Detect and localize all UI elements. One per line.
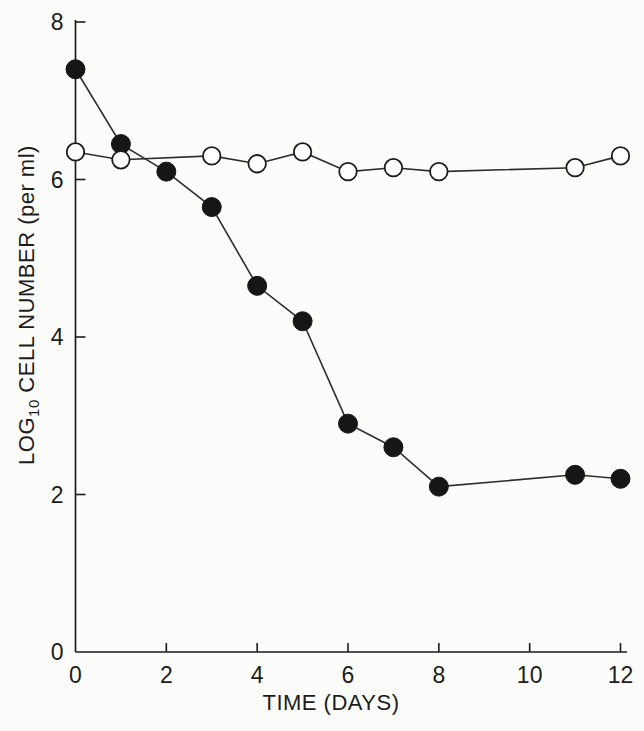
open-circle-series-point-day-8 — [430, 163, 448, 181]
filled-circle-series-point-day-11 — [566, 465, 585, 484]
open-circle-series-point-day-7 — [385, 159, 403, 177]
filled-circle-series-point-day-7 — [384, 438, 403, 457]
filled-circle-series-point-day-3 — [202, 198, 221, 217]
filled-circle-series-point-day-4 — [248, 276, 267, 295]
series-markers — [66, 60, 630, 496]
filled-circle-series-point-day-12 — [611, 469, 630, 488]
filled-circle-series-point-day-8 — [429, 477, 448, 496]
open-circle-series-point-day-1 — [112, 151, 129, 169]
y-axis-label-part: 10 — [25, 399, 42, 417]
open-circle-series-point-day-0 — [67, 143, 85, 161]
axes — [76, 20, 628, 652]
x-axis-label: TIME (DAYS) — [262, 690, 399, 715]
x-tick-label: 0 — [69, 662, 82, 688]
filled-circle-series-point-day-5 — [293, 312, 312, 331]
figure-container: 02468024681012 TIME (DAYS) LOG10 CELL NU… — [0, 0, 644, 731]
x-tick-label: 12 — [608, 662, 634, 688]
open-circle-series-point-day-12 — [612, 147, 630, 165]
filled-circle-series-point-day-0 — [66, 60, 85, 79]
x-tick-label: 4 — [251, 662, 264, 688]
x-tick-label: 10 — [517, 662, 543, 688]
tick-labels: 02468024681012 — [51, 9, 634, 688]
y-axis-label-part: CELL NUMBER (per ml) — [14, 145, 39, 399]
open-circle-series-point-day-4 — [248, 155, 266, 173]
open-circle-series-point-day-5 — [294, 143, 312, 161]
open-circle-series-point-day-6 — [339, 163, 357, 181]
x-tick-label: 8 — [432, 662, 445, 688]
y-axis-label-part: LOG — [14, 417, 39, 465]
open-circle-series-point-day-3 — [203, 147, 221, 165]
y-tick-label: 2 — [51, 482, 64, 508]
growth-curve-chart: 02468024681012 TIME (DAYS) LOG10 CELL NU… — [0, 0, 644, 731]
x-tick-label: 6 — [342, 662, 355, 688]
y-tick-label: 8 — [51, 9, 64, 35]
y-tick-label: 4 — [51, 324, 64, 350]
filled-circle-series-point-day-2 — [157, 162, 176, 181]
open-circle-series-point-day-11 — [566, 159, 584, 177]
x-tick-label: 2 — [160, 662, 173, 688]
y-tick-label: 6 — [51, 167, 64, 193]
y-tick-label: 0 — [51, 639, 64, 665]
filled-circle-series-point-day-6 — [339, 414, 358, 433]
y-axis-label: LOG10 CELL NUMBER (per ml) — [14, 145, 42, 465]
